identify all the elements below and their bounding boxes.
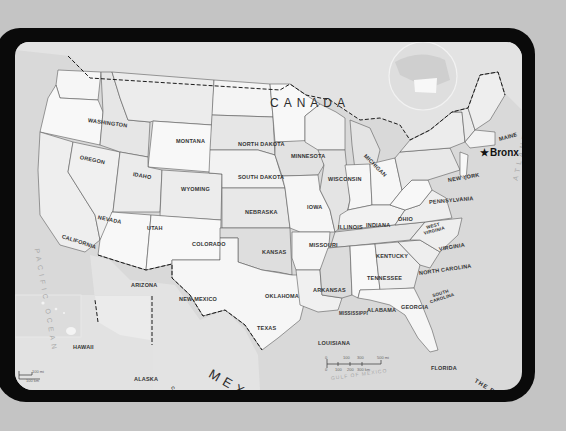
label-colorado: COLORADO: [192, 241, 226, 247]
label-tennessee: TENNESSEE: [367, 275, 402, 281]
label-wyoming: WYOMING: [181, 186, 210, 192]
label-arkansas: ARKANSAS: [313, 287, 346, 293]
label-north-dakota: NORTH DAKOTA: [238, 141, 285, 147]
label-oklahoma: OKLAHOMA: [265, 293, 299, 299]
label-florida: FLORIDA: [431, 365, 457, 371]
label-missouri: MISSOURI: [309, 242, 338, 248]
label-wisconsin: WISCONSIN: [328, 176, 362, 182]
label-mississippi: MISSISSIPPI: [339, 311, 368, 316]
label-alabama: ALABAMA: [367, 307, 396, 313]
label-alaska: ALASKA: [134, 376, 158, 382]
label-illinois: ILLINOIS: [338, 224, 363, 230]
label-south-dakota: SOUTH DAKOTA: [238, 174, 284, 180]
bronx-marker[interactable]: ★ Bronx: [480, 147, 519, 158]
label-montana: MONTANA: [176, 138, 205, 144]
label-georgia: GEORGIA: [401, 304, 428, 310]
bronx-label: Bronx: [490, 147, 519, 158]
label-new-mexico: NEW MEXICO: [179, 296, 217, 302]
label-utah: UTAH: [147, 225, 163, 231]
label-hawaii: HAWAII: [73, 344, 94, 350]
label-indiana: INDIANA: [366, 222, 390, 228]
label-ohio: OHIO: [398, 216, 413, 222]
globe-locator: [389, 42, 457, 110]
map-svg: [15, 42, 522, 390]
label-nebraska: NEBRASKA: [245, 209, 278, 215]
star-icon: ★: [480, 147, 489, 158]
label-arizona: ARIZONA: [131, 282, 157, 288]
label-texas: TEXAS: [257, 325, 276, 331]
label-minnesota: MINNESOTA: [291, 153, 325, 159]
us-map[interactable]: CANADA MEXICO CUBA THE BAHAMAS CANADA PA…: [15, 42, 522, 390]
label-kansas: KANSAS: [262, 249, 286, 255]
label-canada: CANADA: [270, 96, 350, 110]
label-kentucky: KENTUCKY: [376, 253, 408, 259]
label-louisiana: LOUISIANA: [318, 340, 350, 346]
label-iowa: IOWA: [307, 204, 322, 210]
